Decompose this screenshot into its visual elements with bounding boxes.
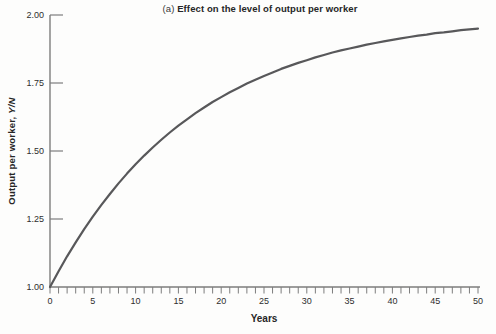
x-tick-label: 30 bbox=[302, 296, 312, 306]
output-curve bbox=[50, 29, 478, 287]
x-tick-label: 5 bbox=[90, 296, 95, 306]
x-tick-label: 45 bbox=[430, 296, 440, 306]
x-tick-label: 0 bbox=[47, 296, 52, 306]
x-tick-label: 35 bbox=[345, 296, 355, 306]
y-tick-label: 1.00 bbox=[26, 282, 44, 292]
x-tick-label: 15 bbox=[173, 296, 183, 306]
y-tick-label: 1.50 bbox=[26, 146, 44, 156]
x-tick-label: 10 bbox=[131, 296, 141, 306]
y-tick-label: 1.25 bbox=[26, 214, 44, 224]
y-tick-label: 2.00 bbox=[26, 10, 44, 20]
x-axis-title: Years bbox=[50, 313, 478, 324]
plot-area: 1.001.251.501.752.0005101520253035404550 bbox=[0, 0, 496, 334]
y-tick-label: 1.75 bbox=[26, 78, 44, 88]
x-tick-label: 20 bbox=[216, 296, 226, 306]
x-tick-label: 25 bbox=[259, 296, 269, 306]
figure: (a) Effect on the level of output per wo… bbox=[0, 0, 496, 334]
x-tick-label: 50 bbox=[473, 296, 483, 306]
x-tick-label: 40 bbox=[387, 296, 397, 306]
